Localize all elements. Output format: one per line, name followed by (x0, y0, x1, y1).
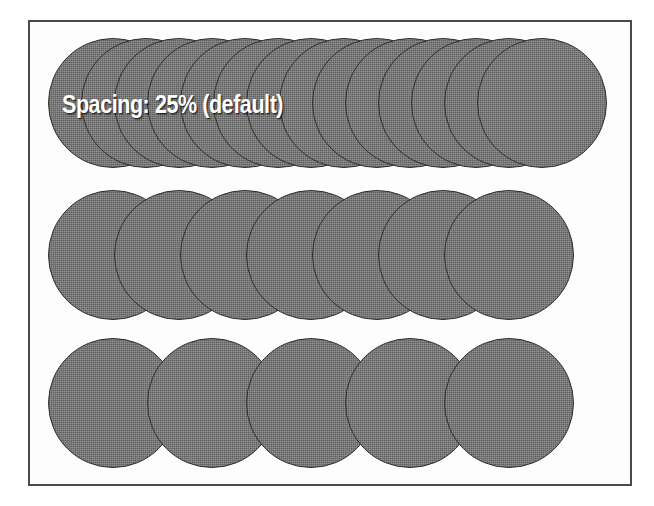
stroke-canvas (0, 0, 654, 506)
brush-dab (477, 38, 607, 168)
brush-dab (444, 338, 574, 468)
brush-spacing-figure: Spacing: 25% (default)Spacing: 50%Spacin… (0, 0, 654, 506)
brush-dab (444, 190, 574, 320)
